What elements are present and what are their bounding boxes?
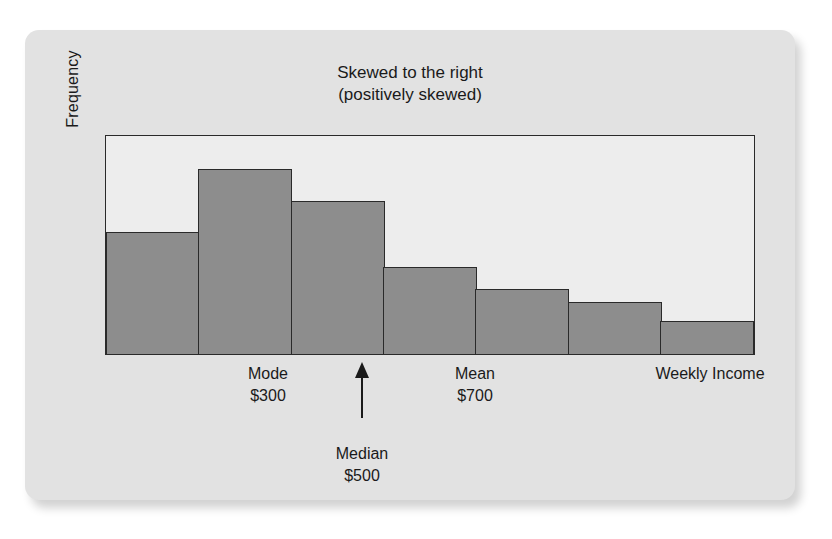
chart-title: Skewed to the right (positively skewed) [25, 62, 795, 106]
histogram-bar [475, 289, 569, 354]
annotation-mean-value: $700 [395, 385, 555, 407]
y-axis-label: Frequency [64, 29, 82, 149]
chart-title-line-2: (positively skewed) [25, 84, 795, 106]
annotation-median-label: Median [282, 443, 442, 465]
histogram-bar [291, 201, 385, 354]
annotation-mode-label: Mode [188, 363, 348, 385]
histogram-bars [106, 136, 754, 354]
histogram-bar [568, 302, 662, 354]
annotation-mean: Mean $700 [395, 363, 555, 407]
figure-card: Skewed to the right (positively skewed) … [25, 30, 795, 500]
histogram-bar [198, 169, 292, 354]
histogram-bar [106, 232, 200, 354]
annotation-median-value: $500 [282, 465, 442, 487]
x-axis-label: Weekly Income [625, 363, 795, 385]
histogram-bar [660, 321, 754, 354]
annotation-mode-value: $300 [188, 385, 348, 407]
annotation-mean-label: Mean [395, 363, 555, 385]
annotation-mode: Mode $300 [188, 363, 348, 407]
annotation-median: Median $500 [282, 443, 442, 487]
histogram-bar [383, 267, 477, 354]
plot-area [105, 135, 755, 355]
up-arrow-icon [351, 360, 373, 418]
chart-title-line-1: Skewed to the right [25, 62, 795, 84]
